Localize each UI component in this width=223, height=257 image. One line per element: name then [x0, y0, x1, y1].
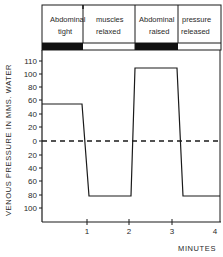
svg-text:60: 60: [28, 96, 37, 105]
phase-label-3b: raised: [149, 27, 169, 36]
phase-bar-abdominal-tight: [42, 43, 83, 50]
svg-text:60: 60: [28, 177, 37, 186]
phase-label-3a: Abdominal: [139, 15, 175, 24]
svg-text:100: 100: [24, 70, 38, 79]
y-axis-label: VENOUS PRESSURE IN MMS. WATER: [4, 64, 13, 216]
pressure-trace: [42, 68, 220, 196]
svg-text:80: 80: [28, 83, 37, 92]
svg-text:0: 0: [33, 137, 38, 146]
phase-label-2b: relaxed: [96, 27, 121, 36]
svg-text:40: 40: [28, 110, 37, 119]
phase-label-4b: released: [181, 27, 210, 36]
svg-text:20: 20: [28, 151, 37, 160]
svg-text:20: 20: [28, 123, 37, 132]
phase-label-1a: Abdominal: [50, 15, 86, 24]
y-tick-labels: 110 100 80 60 40 20 0 20 40 60 80 100: [24, 57, 38, 213]
x-axis-label: MINUTES: [178, 244, 216, 253]
phase-label-1b: tight: [58, 27, 73, 36]
svg-text:2: 2: [127, 227, 132, 236]
svg-text:100: 100: [24, 204, 38, 213]
chart: Abdominal tight muscles relaxed Abdomina…: [0, 0, 223, 257]
svg-text:4: 4: [213, 227, 218, 236]
phase-bar-abdominal-raised: [135, 43, 178, 50]
svg-text:80: 80: [28, 191, 37, 200]
svg-text:110: 110: [24, 57, 37, 66]
x-tick-labels: 1 2 3 4: [85, 227, 218, 236]
svg-text:40: 40: [28, 164, 37, 173]
svg-text:3: 3: [170, 227, 175, 236]
svg-text:1: 1: [85, 227, 90, 236]
phase-label-2a: muscles: [96, 15, 124, 24]
phase-label-4a: pressure: [182, 15, 211, 24]
